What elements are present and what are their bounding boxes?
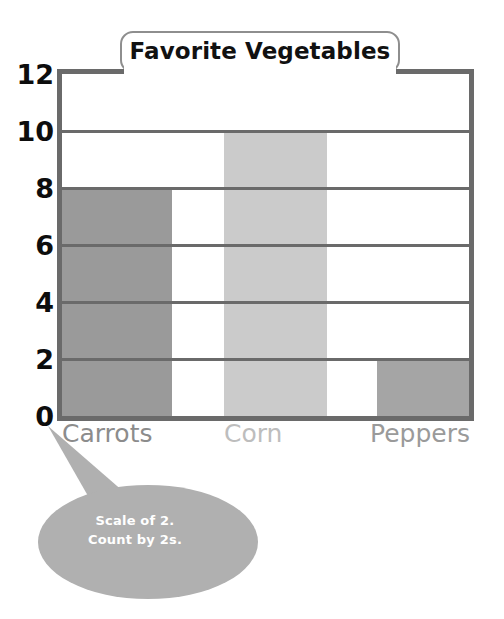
y-tick-4: 4 <box>6 289 54 316</box>
plot-area <box>62 74 469 416</box>
y-tick-10: 10 <box>6 118 54 145</box>
y-tick-6: 6 <box>6 232 54 259</box>
y-tick-8: 8 <box>6 175 54 202</box>
page-title: Favorite Vegetables <box>130 40 391 63</box>
callout-text: Scale of 2. Count by 2s. <box>40 512 230 550</box>
callout-line-1: Scale of 2. <box>40 512 230 531</box>
x-label-peppers: Peppers <box>370 420 470 448</box>
gridline-6 <box>62 244 469 247</box>
callout-line-2: Count by 2s. <box>40 531 230 550</box>
bar-corn[interactable] <box>224 131 327 416</box>
y-tick-12: 12 <box>6 61 54 88</box>
bar-peppers[interactable] <box>377 359 469 416</box>
gridline-8 <box>62 187 469 190</box>
gridline-10 <box>62 130 469 133</box>
gridline-4 <box>62 301 469 304</box>
chart-canvas: Favorite Vegetables 121086420 CarrotsCor… <box>0 0 504 619</box>
title-badge-foot <box>124 66 396 76</box>
y-tick-2: 2 <box>6 346 54 373</box>
gridline-2 <box>62 358 469 361</box>
